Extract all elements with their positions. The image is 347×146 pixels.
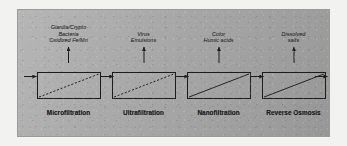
membrane-unit-reverse-osmosis[interactable]: [262, 72, 326, 99]
reject-line: Giardia/Crypto: [31, 24, 106, 31]
membrane-diagonal: [113, 74, 173, 97]
reject-line: Oxidized Fe/Mn: [31, 37, 106, 44]
reject-line: Virus: [106, 31, 181, 38]
reject-line: Bacteria: [31, 31, 106, 38]
stage-microfiltration: Giardia/Crypto Bacteria Oxidized Fe/Mn M…: [31, 10, 106, 136]
stage-nanofiltration: Color Humic acids Nanofiltration: [181, 10, 256, 136]
process-label-nanofiltration: Nanofiltration: [181, 109, 256, 116]
stage-ultrafiltration: Virus Emulsions Ultrafiltration: [106, 10, 181, 136]
reject-line: Humic acids: [181, 37, 256, 44]
reject-line: Color: [181, 31, 256, 38]
diagram-panel: Giardia/Crypto Bacteria Oxidized Fe/Mn M…: [17, 9, 330, 137]
membrane-diagonal: [38, 74, 98, 97]
process-label-reverse-osmosis: Reverse Osmosis: [256, 109, 331, 116]
reject-label-4: Dissolved salts: [256, 31, 331, 44]
membrane-unit-microfiltration[interactable]: [37, 72, 101, 99]
process-label-ultrafiltration: Ultrafiltration: [106, 109, 181, 116]
membrane-unit-ultrafiltration[interactable]: [112, 72, 176, 99]
membrane-unit-nanofiltration[interactable]: [187, 72, 251, 99]
reject-label-2: Virus Emulsions: [106, 31, 181, 44]
screenshot-root: Giardia/Crypto Bacteria Oxidized Fe/Mn M…: [0, 0, 347, 146]
reject-line: Emulsions: [106, 37, 181, 44]
membrane-diagonal: [263, 74, 323, 97]
membrane-diagonal: [188, 74, 248, 97]
reject-label-1: Giardia/Crypto Bacteria Oxidized Fe/Mn: [31, 24, 106, 44]
reject-label-3: Color Humic acids: [181, 31, 256, 44]
process-label-microfiltration: Microfiltration: [31, 109, 106, 116]
stage-reverse-osmosis: Dissolved salts Reverse Osmosis: [256, 10, 331, 136]
reject-line: Dissolved: [256, 31, 331, 38]
reject-line: salts: [256, 37, 331, 44]
